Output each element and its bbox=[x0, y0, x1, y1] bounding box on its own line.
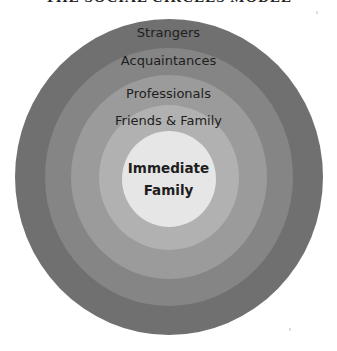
scan-artifact bbox=[316, 11, 318, 14]
label-acquaintances: Acquaintances bbox=[0, 53, 337, 68]
label-immediate: Immediate bbox=[0, 158, 337, 178]
social-circles-diagram: Strangers Acquaintances Professionals Fr… bbox=[0, 0, 337, 351]
label-professionals: Professionals bbox=[0, 86, 337, 101]
label-friends-family: Friends & Family bbox=[0, 113, 337, 128]
ring-immediate-family bbox=[122, 131, 216, 227]
label-family: Family bbox=[0, 180, 337, 200]
label-strangers: Strangers bbox=[0, 25, 337, 40]
scan-artifact bbox=[289, 328, 291, 331]
